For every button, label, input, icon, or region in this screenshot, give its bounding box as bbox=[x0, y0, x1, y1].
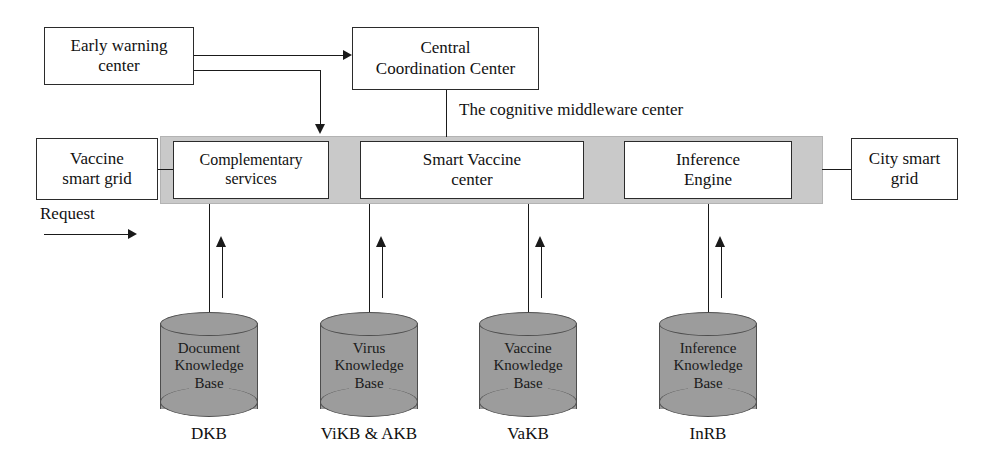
knowledge-base-cylinder-vakb[interactable]: Vaccine Knowledge Base bbox=[479, 312, 577, 420]
complementary-services-label: Complementary services bbox=[195, 151, 306, 189]
knowledge-base-cylinder-dkb[interactable]: Document Knowledge Base bbox=[160, 312, 258, 420]
flow-arrow-dkb-head bbox=[216, 236, 226, 247]
connector-bar-to-city-grid bbox=[822, 169, 852, 170]
flow-arrow-dkb-shaft bbox=[222, 246, 223, 298]
complementary-services-box[interactable]: Complementary services bbox=[173, 141, 329, 199]
cylinder-top-ellipse bbox=[160, 312, 258, 336]
central-coordination-center-label: Central Coordination Center bbox=[372, 38, 519, 78]
cylinder-top-ellipse bbox=[320, 312, 418, 336]
knowledge-base-vakb-label: Vaccine Knowledge Base bbox=[479, 340, 577, 392]
cylinder-top-ellipse bbox=[479, 312, 577, 336]
request-arrow-line bbox=[44, 234, 130, 235]
flow-arrow-vikb-head bbox=[376, 236, 386, 247]
connector-bar-to-inrb bbox=[708, 204, 709, 329]
knowledge-base-vikb-caption: ViKB & AKB bbox=[294, 424, 444, 444]
city-smart-grid-label: City smart grid bbox=[865, 149, 944, 189]
early-warning-center-label: Early warning center bbox=[67, 36, 172, 76]
inference-engine-box[interactable]: Inference Engine bbox=[624, 141, 792, 199]
connector-bar-to-dkb bbox=[209, 204, 210, 329]
connector-early-warning-to-complementary-horizontal bbox=[194, 70, 321, 71]
connector-bar-to-vikb bbox=[369, 204, 370, 329]
connector-bar-to-vakb bbox=[528, 204, 529, 329]
connector-central-to-middleware bbox=[446, 90, 447, 137]
early-warning-center-box[interactable]: Early warning center bbox=[44, 27, 194, 85]
knowledge-base-cylinder-vikb[interactable]: Virus Knowledge Base bbox=[320, 312, 418, 420]
city-smart-grid-box[interactable]: City smart grid bbox=[851, 138, 958, 200]
vaccine-smart-grid-box[interactable]: Vaccine smart grid bbox=[36, 138, 158, 200]
knowledge-base-cylinder-inrb[interactable]: Inference Knowledge Base bbox=[659, 312, 757, 420]
flow-arrow-inrb-head bbox=[715, 236, 725, 247]
request-label: Request bbox=[40, 204, 95, 224]
knowledge-base-vakb-caption: VaKB bbox=[453, 424, 603, 444]
flow-arrow-vakb-shaft bbox=[541, 246, 542, 298]
knowledge-base-dkb-caption: DKB bbox=[134, 424, 284, 444]
central-coordination-center-box[interactable]: Central Coordination Center bbox=[352, 27, 539, 90]
cylinder-top-ellipse bbox=[659, 312, 757, 336]
inference-engine-label: Inference Engine bbox=[672, 150, 744, 190]
connector-early-warning-to-central bbox=[194, 55, 343, 56]
connector-early-warning-to-complementary-vertical bbox=[320, 70, 321, 125]
connector-vaccine-grid-to-bar bbox=[158, 169, 174, 170]
request-arrowhead bbox=[128, 229, 137, 239]
smart-vaccine-center-label: Smart Vaccine center bbox=[419, 150, 525, 190]
arrowhead-early-warning-to-complementary bbox=[315, 124, 325, 134]
knowledge-base-inrb-label: Inference Knowledge Base bbox=[659, 340, 757, 392]
flow-arrow-vakb-head bbox=[535, 236, 545, 247]
knowledge-base-dkb-label: Document Knowledge Base bbox=[160, 340, 258, 392]
flow-arrow-inrb-shaft bbox=[721, 246, 722, 298]
arrowhead-early-warning-to-central bbox=[343, 50, 352, 60]
middleware-center-caption: The cognitive middleware center bbox=[459, 100, 683, 120]
smart-vaccine-center-box[interactable]: Smart Vaccine center bbox=[360, 141, 584, 199]
knowledge-base-inrb-caption: InRB bbox=[633, 424, 783, 444]
vaccine-smart-grid-label: Vaccine smart grid bbox=[58, 149, 135, 189]
knowledge-base-vikb-label: Virus Knowledge Base bbox=[320, 340, 418, 392]
architecture-diagram: Early warning center Central Coordinatio… bbox=[0, 0, 992, 473]
flow-arrow-vikb-shaft bbox=[382, 246, 383, 298]
